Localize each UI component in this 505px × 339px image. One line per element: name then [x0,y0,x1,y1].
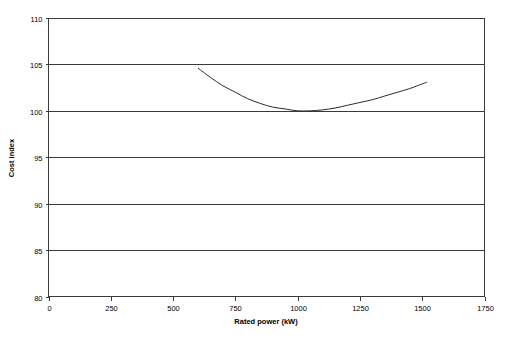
x-tick-label-750: 750 [229,304,242,313]
x-tick-label-0: 0 [47,304,51,313]
x-tick-label-1750: 1750 [477,304,494,313]
x-axis-ticks: 02505007501000125015001750 [47,297,493,313]
chart-container: 02505007501000125015001750 8085909510010… [0,0,505,339]
x-axis-title: Rated power (kW) [234,317,298,326]
y-tick-label-95: 95 [34,154,42,163]
x-tick-label-500: 500 [167,304,180,313]
y-tick-label-100: 100 [30,108,43,117]
x-tick-label-1250: 1250 [352,304,369,313]
y-tick-label-105: 105 [30,61,43,70]
cost-index-line-chart: 02505007501000125015001750 8085909510010… [0,0,505,339]
y-tick-label-80: 80 [34,294,42,303]
y-tick-label-110: 110 [31,15,43,24]
y-tick-label-85: 85 [34,247,42,256]
x-tick-label-250: 250 [105,304,118,313]
x-tick-label-1000: 1000 [290,304,307,313]
y-axis-ticks: 80859095100105110 [30,15,49,303]
y-tick-label-90: 90 [34,201,42,210]
y-axis-title: Cost index [7,138,16,177]
x-tick-label-1500: 1500 [414,304,431,313]
